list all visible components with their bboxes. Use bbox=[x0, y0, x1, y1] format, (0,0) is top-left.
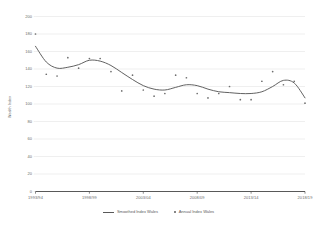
chart-legend: Smoothed Index Wales Annual Index Wales bbox=[0, 210, 317, 214]
y-tick-label: 60 bbox=[8, 136, 32, 141]
y-axis-title: Wealth Index bbox=[8, 96, 12, 118]
y-tick-label: 20 bbox=[8, 171, 32, 176]
y-tick-marks bbox=[34, 17, 36, 192]
gridlines bbox=[36, 17, 306, 175]
legend-item-smoothed: Smoothed Index Wales bbox=[103, 210, 158, 214]
wealth-index-chart: 200180160140120100806040200 1993/941998/… bbox=[0, 0, 317, 230]
y-tick-label: 0 bbox=[8, 189, 32, 194]
y-tick-label: 140 bbox=[8, 66, 32, 71]
legend-dot-swatch bbox=[174, 211, 176, 213]
x-tick-label: 2008/09 bbox=[177, 195, 217, 200]
legend-item-annual: Annual Index Wales bbox=[174, 210, 214, 214]
legend-line-swatch bbox=[103, 212, 114, 213]
annual-index-markers bbox=[35, 33, 306, 104]
y-tick-label: 120 bbox=[8, 84, 32, 89]
y-tick-label: 200 bbox=[8, 14, 32, 19]
x-tick-label: 2003/04 bbox=[123, 195, 163, 200]
x-tick-label: 2018/19 bbox=[285, 195, 317, 200]
x-tick-label: 1993/94 bbox=[16, 195, 56, 200]
legend-label-smoothed: Smoothed Index Wales bbox=[117, 210, 158, 214]
y-tick-label: 160 bbox=[8, 49, 32, 54]
x-tick-label: 2013/14 bbox=[231, 195, 271, 200]
y-tick-label: 80 bbox=[8, 119, 32, 124]
x-tick-label: 1998/99 bbox=[69, 195, 109, 200]
legend-label-annual: Annual Index Wales bbox=[179, 210, 214, 214]
y-tick-label: 40 bbox=[8, 154, 32, 159]
smoothed-index-line bbox=[36, 46, 306, 98]
y-tick-label: 180 bbox=[8, 31, 32, 36]
